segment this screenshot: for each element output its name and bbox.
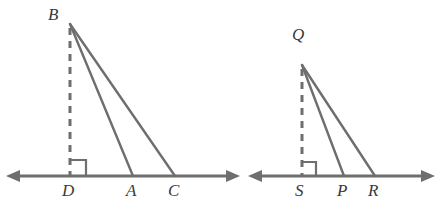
vertex-label-S: S xyxy=(295,182,304,199)
vertex-label-C: C xyxy=(168,182,179,199)
right-angle-marker-D xyxy=(70,160,86,176)
geometry-figure-canvas: B D A C Q S P R xyxy=(0,0,441,215)
vertex-label-A: A xyxy=(126,182,136,199)
vertex-label-P: P xyxy=(337,182,347,199)
vertex-label-D: D xyxy=(62,182,74,199)
baseline-DC-right-arrowhead xyxy=(226,170,240,182)
right-angle-marker-S xyxy=(302,162,316,176)
vertex-label-B: B xyxy=(48,6,58,23)
baseline-DC-left-arrowhead xyxy=(6,170,20,182)
right-figure xyxy=(248,65,435,182)
left-figure xyxy=(6,24,240,182)
baseline-SR-left-arrowhead xyxy=(248,170,262,182)
vertex-label-Q: Q xyxy=(292,26,304,43)
baseline-SR-right-arrowhead xyxy=(421,170,435,182)
vertex-label-R: R xyxy=(368,182,378,199)
